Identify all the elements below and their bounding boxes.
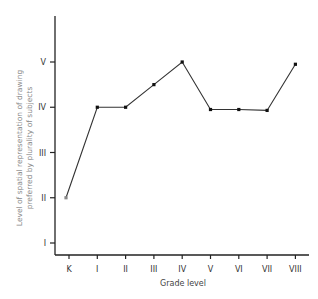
- x-tick-label: VII: [262, 265, 272, 274]
- x-tick-label: I: [96, 265, 98, 274]
- data-point: [237, 108, 240, 111]
- y-tick-label: II: [41, 194, 46, 203]
- data-point: [294, 63, 297, 66]
- y-axis-label-line: preferred by plurality of subjects: [25, 87, 34, 210]
- y-axis-ticks: IIIIIIIVV: [38, 58, 55, 248]
- y-axis-label: Level of spatial representation of drawi…: [15, 70, 34, 227]
- series-line: [66, 62, 295, 198]
- x-tick-label: K: [66, 265, 72, 274]
- y-axis-label-line: Level of spatial representation of drawi…: [15, 70, 24, 227]
- y-tick-label: I: [44, 239, 46, 248]
- x-tick-label: II: [123, 265, 128, 274]
- x-tick-label: IV: [178, 265, 186, 274]
- x-tick-label: VIII: [289, 265, 302, 274]
- x-axis-ticks: KIIIIIIIVVVIVIIVIII: [66, 255, 301, 274]
- data-point: [181, 60, 184, 63]
- line-chart: Level of spatial representation of drawi…: [0, 0, 318, 299]
- data-point: [124, 106, 127, 109]
- x-tick-label: V: [208, 265, 214, 274]
- y-tick-label: V: [41, 58, 47, 67]
- x-tick-label: VI: [235, 265, 243, 274]
- data-point: [152, 83, 155, 86]
- data-point: [209, 108, 212, 111]
- x-axis-title: Grade level: [160, 279, 206, 288]
- y-tick-label: IV: [38, 103, 46, 112]
- data-point: [64, 196, 67, 199]
- x-tick-label: III: [150, 265, 157, 274]
- data-point: [96, 106, 99, 109]
- data-point-markers: [64, 60, 297, 199]
- y-tick-label: III: [39, 149, 46, 158]
- data-point: [266, 109, 269, 112]
